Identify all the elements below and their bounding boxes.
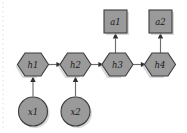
node-a1-shape xyxy=(104,10,127,33)
node-a2-shape xyxy=(149,10,172,33)
graphical-model-diagram: a1 a2 h1 h2 h3 h4 xyxy=(0,0,187,133)
node-h1-shape xyxy=(18,53,49,76)
node-h2-shape xyxy=(60,53,91,76)
node-x2-shape xyxy=(61,97,90,126)
edge-x2-h2 xyxy=(73,77,78,97)
node-x2[interactable]: x2 xyxy=(61,97,92,128)
edge-h4-a2 xyxy=(158,33,163,53)
diagram-canvas: a1 a2 h1 h2 h3 h4 xyxy=(0,0,187,133)
node-x1-shape xyxy=(19,97,48,126)
node-h4[interactable]: h4 xyxy=(143,53,176,78)
node-h3[interactable]: h3 xyxy=(100,53,133,78)
node-h1[interactable]: h1 xyxy=(16,53,49,78)
node-h3-shape xyxy=(102,53,133,76)
node-x1[interactable]: x1 xyxy=(19,97,50,128)
node-h2[interactable]: h2 xyxy=(58,53,91,78)
edge-x1-h1 xyxy=(30,77,35,97)
node-a1[interactable]: a1 xyxy=(104,10,129,35)
edge-h3-a1 xyxy=(113,33,118,53)
node-h4-shape xyxy=(145,53,176,76)
node-a2[interactable]: a2 xyxy=(149,10,174,35)
